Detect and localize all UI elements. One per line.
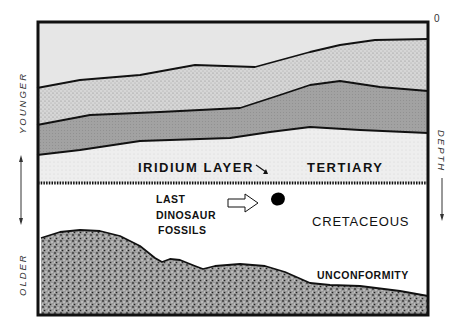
dinosaur-label: DINOSAUR [156,209,216,221]
depth-axis-arrow-down-icon [440,214,444,221]
tertiary-label: TERTIARY [307,160,384,175]
depth-label: DEPTH [436,130,447,172]
fossils-label: FOSSILS [158,224,206,236]
cretaceous-label: CRETACEOUS [312,214,409,229]
older-label: OLDER [17,253,28,296]
younger-label: YOUNGER [17,72,28,134]
age-axis-arrow-down-icon [19,218,23,225]
depth-zero-label: 0 [434,13,440,24]
geologic-diagram: IRIDIUM LAYER TERTIARY LAST DINOSAUR FOS… [0,0,461,329]
iridium-layer-label: IRIDIUM LAYER [138,160,254,175]
unconformity-label: UNCONFORMITY [317,269,409,281]
age-axis-arrow-up-icon [19,155,23,162]
last-label: LAST [156,193,186,205]
